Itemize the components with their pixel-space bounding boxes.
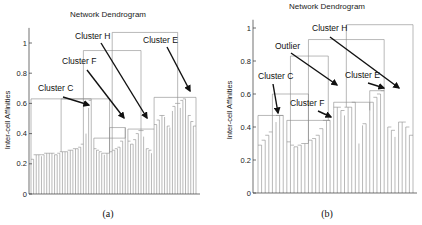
panel-b-annot-cluster-f: Cluster F bbox=[290, 98, 324, 108]
panel-a-merge-link bbox=[61, 99, 109, 153]
panel-b-y-tick-label: 0.2 bbox=[241, 156, 251, 165]
panel-a-arrow-cluster-e bbox=[167, 47, 190, 91]
panel-a-y-tick-label: 0.8 bbox=[17, 69, 27, 78]
panel-a-annot-cluster-e: Cluster E bbox=[143, 35, 178, 45]
panel-a-title: Network Dendrogram bbox=[70, 10, 146, 19]
panel-a-annot-cluster-c: Cluster C bbox=[38, 83, 73, 93]
panel-b: Network Dendrogram Inter-cell Affinities… bbox=[225, 2, 417, 220]
panel-b-arrow-cluster-h bbox=[330, 37, 399, 88]
panel-a-y-tick-label: 0.2 bbox=[17, 159, 27, 168]
panel-b-annot-cluster-c: Cluster C bbox=[258, 71, 293, 81]
panel-a-annotations: Cluster C Cluster F Cluster H Cluster E bbox=[38, 31, 190, 118]
panel-b-annot-cluster-e: Cluster E bbox=[345, 70, 380, 80]
panel-a-arrow-cluster-f bbox=[87, 70, 124, 118]
panel-b-arrow-cluster-f bbox=[318, 111, 331, 117]
panel-b-ylabel: Inter-cell Affinities bbox=[225, 80, 234, 139]
panel-a-y-tick-label: 0.6 bbox=[17, 99, 27, 108]
panel-b-arrow-cluster-c bbox=[273, 84, 278, 113]
panel-a-ylabel: Inter-cell Affinities bbox=[3, 90, 12, 149]
panel-b-arrow-outlier bbox=[291, 53, 337, 85]
panel-a: Network Dendrogram Inter-cell Affinities… bbox=[3, 10, 200, 220]
figure: Network Dendrogram Inter-cell Affinities… bbox=[0, 0, 422, 225]
panel-b-y-axis: 00.20.40.60.81 bbox=[241, 20, 417, 198]
panel-a-annot-cluster-f: Cluster F bbox=[62, 56, 96, 66]
panel-a-y-tick-label: 0 bbox=[23, 190, 27, 199]
panel-b-annot-outlier: Outlier bbox=[275, 41, 300, 51]
panel-b-y-tick-label: 0.6 bbox=[241, 90, 251, 99]
panel-a-arrow-cluster-c bbox=[63, 97, 89, 105]
panel-b-y-tick-label: 0.4 bbox=[241, 123, 251, 132]
panel-b-arrow-cluster-e bbox=[368, 83, 384, 88]
panel-a-dendrogram-links bbox=[31, 32, 196, 194]
panel-b-merge-link bbox=[346, 25, 413, 139]
panel-b-y-tick-label: 1 bbox=[247, 24, 251, 33]
panel-a-caption: (a) bbox=[102, 208, 113, 220]
panel-b-y-tick-label: 0 bbox=[247, 189, 251, 198]
panel-b-annot-cluster-h: Cluster H bbox=[312, 23, 347, 33]
panel-a-annot-cluster-h: Cluster H bbox=[75, 31, 110, 41]
panel-b-caption: (b) bbox=[321, 208, 333, 220]
panel-a-arrow-cluster-h bbox=[101, 43, 147, 118]
panel-a-y-tick-label: 0.4 bbox=[17, 129, 27, 138]
panel-b-title: Network Dendrogram bbox=[289, 2, 365, 11]
panel-a-y-tick-label: 1 bbox=[23, 39, 27, 48]
panel-b-y-tick-label: 0.8 bbox=[241, 57, 251, 66]
